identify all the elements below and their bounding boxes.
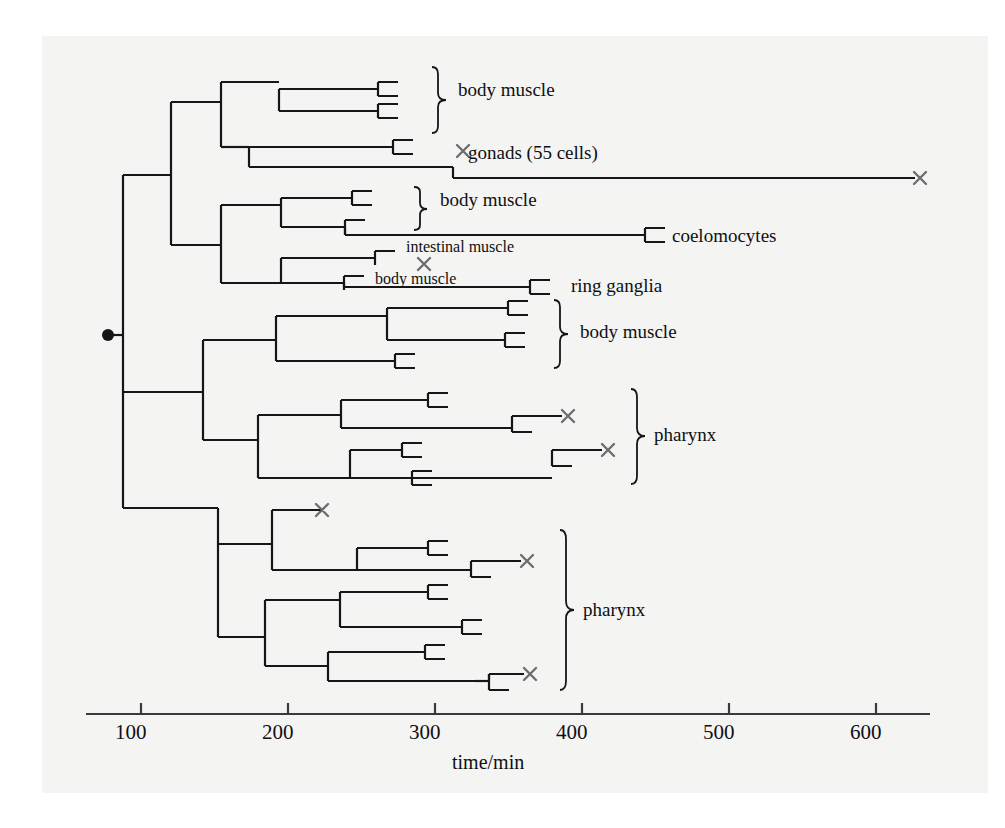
branch-group-b	[123, 308, 512, 478]
death-marker-intestinal	[418, 258, 430, 270]
label-body-muscle-1: body muscle	[458, 80, 555, 99]
tick-label-600: 600	[850, 722, 882, 743]
time-axis	[86, 703, 930, 714]
lineage-tree-svg	[0, 0, 1005, 828]
brace-body-muscle-2	[414, 187, 427, 230]
tick-label-300: 300	[409, 722, 441, 743]
brace-pharynx-2	[560, 530, 574, 690]
death-marker-pharynx-c1	[521, 555, 533, 567]
branch-group-a	[123, 82, 645, 287]
label-intestinal-muscle: intestinal muscle	[406, 239, 514, 255]
brace-pharynx-1	[631, 389, 645, 484]
death-marker-pharynx-c2	[524, 668, 536, 680]
label-body-muscle-2: body muscle	[440, 190, 537, 209]
label-pharynx-1: pharynx	[654, 425, 716, 444]
branch-group-c	[123, 508, 475, 681]
leaf-brackets-c	[425, 541, 524, 690]
tick-label-400: 400	[556, 722, 588, 743]
lineage-figure: body muscle gonads (55 cells) body muscl…	[0, 0, 1005, 828]
label-pharynx-2: pharynx	[583, 600, 645, 619]
root-node	[102, 175, 123, 508]
axis-title: time/min	[452, 752, 524, 772]
leaf-brackets-b	[395, 301, 602, 485]
label-ring-ganglia: ring ganglia	[571, 276, 662, 295]
label-body-muscle-3: body muscle	[375, 271, 456, 287]
death-marker-pharynx-b1	[562, 410, 574, 422]
brace-body-muscle-1	[432, 67, 446, 133]
gonads-branch	[453, 167, 915, 178]
tick-label-200: 200	[262, 722, 294, 743]
death-marker-gonads-end	[914, 172, 926, 184]
label-body-muscle-4: body muscle	[580, 322, 677, 341]
tick-label-100: 100	[115, 722, 147, 743]
label-gonads: gonads (55 cells)	[468, 143, 598, 162]
death-marker-pharynx-b2	[602, 444, 614, 456]
tick-label-500: 500	[703, 722, 735, 743]
brace-body-muscle-4	[554, 300, 568, 368]
leaf-brackets-a	[344, 82, 665, 294]
label-coelomocytes: coelomocytes	[672, 226, 776, 245]
